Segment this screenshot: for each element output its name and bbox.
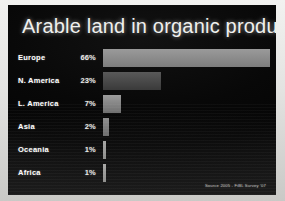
bar-oceania bbox=[103, 141, 106, 159]
table-row: Asia 2% bbox=[18, 115, 270, 138]
bar-n-america bbox=[103, 72, 161, 90]
table-row: N. America 23% bbox=[18, 69, 270, 92]
page-title: Arable land in organic production bbox=[22, 15, 276, 38]
bar-l-america bbox=[103, 95, 121, 113]
category-label-oceania: Oceania bbox=[18, 145, 74, 154]
value-label-asia: 2% bbox=[74, 122, 96, 131]
bar-track-europe bbox=[103, 49, 270, 67]
table-row: Oceania 1% bbox=[18, 138, 270, 161]
slide-frame: Arable land in organic production Europe… bbox=[0, 0, 285, 201]
bar-track-l-america bbox=[103, 95, 270, 113]
category-label-africa: Africa bbox=[18, 168, 74, 177]
bar-chart: Europe 66% N. America 23% L. America 7% bbox=[18, 46, 270, 174]
table-row: Africa 1% bbox=[18, 161, 270, 184]
category-label-n-america: N. America bbox=[18, 76, 74, 85]
bar-track-asia bbox=[103, 118, 270, 136]
category-label-l-america: L. America bbox=[18, 99, 74, 108]
value-label-oceania: 1% bbox=[74, 145, 96, 154]
table-row: L. America 7% bbox=[18, 92, 270, 115]
bar-asia bbox=[103, 118, 109, 136]
bar-africa bbox=[103, 164, 106, 182]
bar-track-africa bbox=[103, 164, 270, 182]
source-credit: Source 2005 - FiBL Survey '07 bbox=[205, 183, 266, 188]
slide-canvas: Arable land in organic production Europe… bbox=[8, 5, 276, 195]
bar-track-n-america bbox=[103, 72, 270, 90]
bar-europe bbox=[103, 49, 270, 67]
value-label-n-america: 23% bbox=[74, 76, 96, 85]
category-label-europe: Europe bbox=[18, 53, 74, 62]
table-row: Europe 66% bbox=[18, 46, 270, 69]
value-label-africa: 1% bbox=[74, 168, 96, 177]
value-label-l-america: 7% bbox=[74, 99, 96, 108]
value-label-europe: 66% bbox=[74, 53, 96, 62]
category-label-asia: Asia bbox=[18, 122, 74, 131]
bar-track-oceania bbox=[103, 141, 270, 159]
